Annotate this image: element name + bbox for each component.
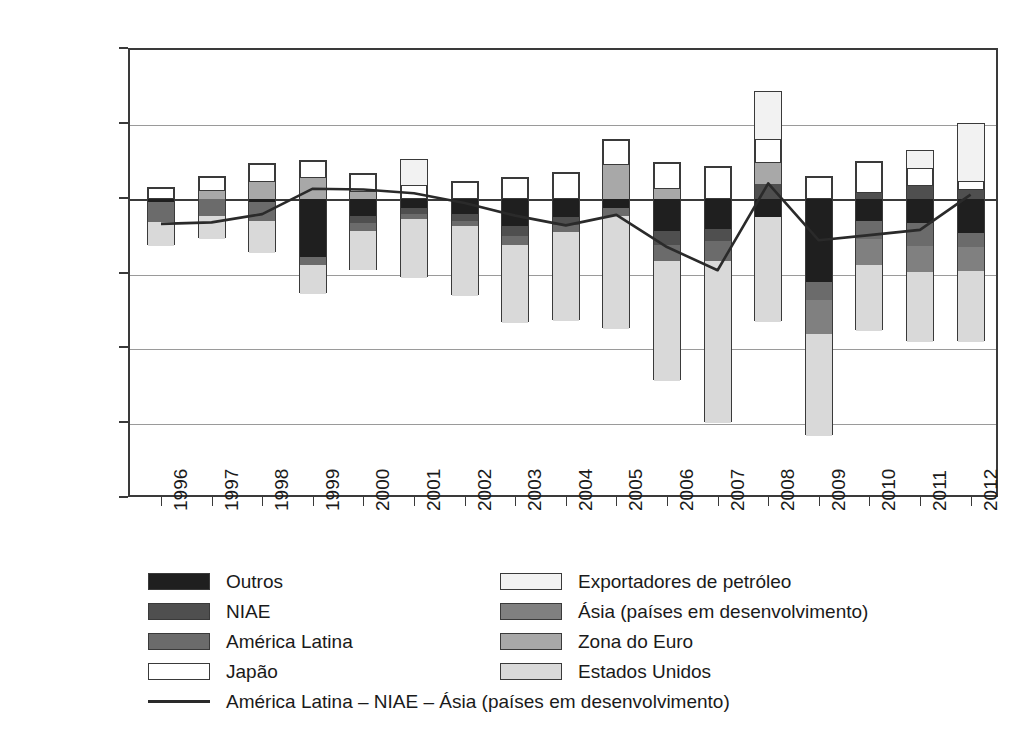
bar-segment [148,222,174,246]
bar-segment [654,231,680,245]
y-tick-mark [119,47,128,49]
chart-legend: OutrosExportadores de petróleoNIAEÁsia (… [148,566,990,716]
bar-segment [603,165,629,199]
bar-segment [249,182,275,198]
outros-swatch [148,573,210,590]
x-tick-mark [414,497,415,506]
bar-segment [755,217,781,323]
legend-label: NIAE [226,602,270,621]
x-tick-mark [465,497,466,506]
x-tick-label-1997: 1997 [221,469,243,511]
bar-segment [401,199,427,208]
bar-2009 [805,176,833,435]
bar-2008 [754,91,782,321]
legend-row: NIAEÁsia (países em desenvolvimento) [148,596,990,626]
x-tick-mark [768,497,769,506]
bar-segment [907,186,933,199]
bar-segment [502,178,528,198]
y-tick-mark [119,496,128,498]
legend-item[interactable]: Outros [148,566,283,596]
bar-segment [755,92,781,138]
gridline [130,424,996,425]
bar-segment [603,216,629,329]
bar-segment [553,232,579,321]
bar-segment [806,199,832,283]
legend-label: Estados Unidos [578,662,711,681]
legend-row: OutrosExportadores de petróleo [148,566,990,596]
x-tick-mark [566,497,567,506]
legend-item[interactable]: NIAE [148,596,270,626]
america-latina-swatch [148,633,210,650]
bar-segment [199,216,225,239]
x-tick-label-2005: 2005 [625,469,647,511]
bar-segment [654,189,680,199]
legend-label: América Latina – NIAE – Ásia (países em … [226,692,730,711]
bar-segment [806,300,832,334]
bar-segment [755,184,781,198]
bar-segment [856,193,882,199]
x-tick-label-2002: 2002 [474,469,496,511]
legend-item[interactable]: Exportadores de petróleo [500,566,791,596]
bar-segment [958,124,984,182]
bar-segment [300,257,326,265]
legend-label: Zona do Euro [578,632,693,651]
bar-segment [907,272,933,342]
legend-label: Exportadores de petróleo [578,572,791,591]
bar-segment [452,182,478,198]
bar-segment [907,151,933,168]
x-tick-label-2006: 2006 [676,469,698,511]
bar-1998 [248,163,276,252]
bar-segment [249,164,275,182]
legend-label: Japão [226,662,278,681]
y-tick-mark [119,272,128,274]
y-tick-mark [119,346,128,348]
x-tick-label-2004: 2004 [575,469,597,511]
bar-segment [148,188,174,198]
legend-row: América Latina – NIAE – Ásia (países em … [148,686,990,716]
bar-segment [856,239,882,264]
bar-segment [553,173,579,198]
x-tick-mark [920,497,921,506]
legend-label: Outros [226,572,283,591]
y-tick-mark [119,421,128,423]
bar-segment [350,174,376,192]
legend-item[interactable]: Estados Unidos [500,656,711,686]
bar-segment [300,161,326,178]
x-tick-mark [212,497,213,506]
bar-segment [856,265,882,332]
bar-segment [806,334,832,436]
bar-segment [350,231,376,271]
bar-segment [199,199,225,216]
legend-item[interactable]: Japão [148,656,278,686]
x-tick-mark [667,497,668,506]
x-tick-mark [819,497,820,506]
y-tick-mark [119,197,128,199]
bar-segment [452,214,478,221]
bar-segment [452,199,478,215]
x-tick-label-2000: 2000 [372,469,394,511]
bar-segment [958,271,984,341]
bar-segment [705,199,731,230]
x-tick-label-2011: 2011 [929,470,951,511]
bar-segment [705,229,731,241]
chart-figure: 1.0005000-500-1.000-1.500-2.000199619971… [0,0,1030,752]
bar-segment [502,236,528,245]
legend-item[interactable]: Zona do Euro [500,626,693,656]
bar-segment [907,199,933,223]
bar-segment [350,216,376,223]
legend-item[interactable]: América Latina [148,626,353,656]
legend-item-line-series[interactable]: América Latina – NIAE – Ásia (países em … [148,686,730,716]
legend-item[interactable]: Ásia (países em desenvolvimento) [500,596,868,626]
x-tick-mark [262,497,263,506]
bar-segment [300,178,326,199]
x-tick-mark [718,497,719,506]
bar-2011 [906,150,934,342]
bar-segment [148,202,174,221]
gridline [130,349,996,350]
legend-label: Ásia (países em desenvolvimento) [578,602,868,621]
x-tick-mark [869,497,870,506]
bar-segment [705,167,731,198]
x-tick-mark [971,497,972,506]
bar-segment [907,246,933,272]
bar-segment [654,245,680,261]
